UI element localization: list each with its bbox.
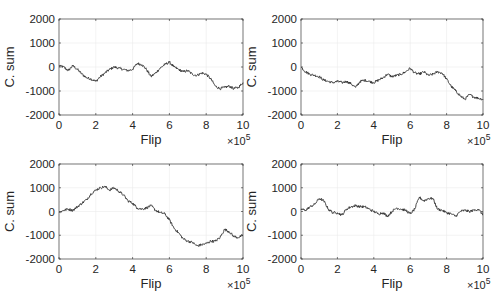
x-tick-label: 4 xyxy=(371,263,378,275)
y-axis-label: C. sum xyxy=(244,46,259,87)
data-series-line xyxy=(301,67,483,100)
y-tick-label: 0 xyxy=(291,61,297,73)
x-tick-label: 6 xyxy=(407,119,413,131)
y-tick-label: 2000 xyxy=(271,13,297,25)
x-tick-label: 0 xyxy=(56,119,62,131)
x-tick-label: 6 xyxy=(407,263,413,275)
x-axis-label: Flip xyxy=(141,276,162,291)
y-tick-label: 2000 xyxy=(271,158,297,170)
y-tick-label: -2000 xyxy=(26,109,55,121)
y-tick-label: 0 xyxy=(291,206,297,218)
x-tick-label: 6 xyxy=(166,119,172,131)
x-tick-label: 10 xyxy=(477,119,490,131)
y-tick-label: -1000 xyxy=(268,85,297,97)
data-series-line xyxy=(59,61,243,90)
grid-lines xyxy=(59,164,243,259)
x-tick-label: 8 xyxy=(203,263,209,275)
x-axis-label: Flip xyxy=(141,132,162,147)
y-tick-label: -1000 xyxy=(26,229,55,241)
grid-lines xyxy=(59,19,243,115)
y-tick-label: 2000 xyxy=(29,158,55,170)
y-tick-label: 2000 xyxy=(29,13,55,25)
x-tick-label: 0 xyxy=(56,263,62,275)
y-tick-label: 1000 xyxy=(29,37,55,49)
x-tick-label: 6 xyxy=(166,263,172,275)
data-series-line xyxy=(59,186,243,247)
x-exponent-label: ×105 xyxy=(227,276,251,291)
y-axis-label: C. sum xyxy=(2,191,17,232)
y-axis-label: C. sum xyxy=(244,191,259,232)
x-tick-label: 4 xyxy=(129,263,136,275)
x-tick-label: 8 xyxy=(443,119,449,131)
x-exponent-label: ×105 xyxy=(467,132,491,147)
y-tick-label: -2000 xyxy=(268,109,297,121)
subplot-bottom-left: 0246810200010000-1000-2000FlipC. sum×105 xyxy=(2,158,251,291)
x-tick-label: 2 xyxy=(334,263,340,275)
y-tick-label: 1000 xyxy=(271,182,297,194)
y-tick-label: 1000 xyxy=(29,182,55,194)
y-tick-label: 0 xyxy=(49,206,55,218)
x-tick-label: 0 xyxy=(298,119,304,131)
y-tick-label: -2000 xyxy=(26,253,55,265)
subplot-top-right: 0246810200010000-1000-2000FlipC. sum×105 xyxy=(244,13,491,147)
figure: 0246810200010000-1000-2000FlipC. sum×105… xyxy=(0,0,501,304)
x-axis-label: Flip xyxy=(382,276,403,291)
x-tick-label: 2 xyxy=(93,263,99,275)
y-tick-label: -1000 xyxy=(26,85,55,97)
x-tick-label: 4 xyxy=(371,119,378,131)
y-tick-label: -2000 xyxy=(268,253,297,265)
x-tick-label: 10 xyxy=(237,119,250,131)
subplot-bottom-right: 0246810200010000-1000-2000FlipC. sum×105 xyxy=(244,158,491,291)
x-tick-label: 8 xyxy=(203,119,209,131)
x-exponent-label: ×105 xyxy=(227,132,251,147)
x-tick-label: 0 xyxy=(298,263,304,275)
data-series-line xyxy=(301,197,483,217)
x-tick-label: 10 xyxy=(477,263,490,275)
grid-lines xyxy=(301,19,483,115)
y-axis-label: C. sum xyxy=(2,46,17,87)
subplot-top-left: 0246810200010000-1000-2000FlipC. sum×105 xyxy=(2,13,251,147)
x-tick-label: 8 xyxy=(443,263,449,275)
x-tick-label: 4 xyxy=(129,119,136,131)
y-tick-label: 1000 xyxy=(271,37,297,49)
x-tick-label: 2 xyxy=(334,119,340,131)
x-tick-label: 10 xyxy=(237,263,250,275)
x-exponent-label: ×105 xyxy=(467,276,491,291)
y-tick-label: 0 xyxy=(49,61,55,73)
x-axis-label: Flip xyxy=(382,132,403,147)
x-tick-label: 2 xyxy=(93,119,99,131)
y-tick-label: -1000 xyxy=(268,229,297,241)
